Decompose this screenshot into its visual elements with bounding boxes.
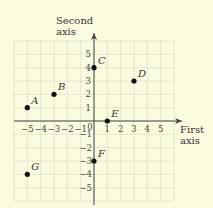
point-label-f: F [97,148,106,159]
point-label-b: B [57,81,65,92]
x-tick-label: 5 [158,124,163,134]
y-axis-label-line2: axis [56,26,76,37]
point-label-a: A [30,95,38,106]
x-tick-label: 1 [105,124,110,134]
y-tick-label: 2 [86,89,91,99]
point-a [25,105,30,110]
y-tick-label: −1 [79,129,92,139]
point-c [91,65,96,70]
point-label-e: E [110,108,119,119]
y-tick-label: 1 [86,103,91,113]
y-tick-label: −5 [79,183,92,193]
point-g [25,172,30,177]
x-tick-label: −4 [34,124,47,134]
coordinate-plane: Second axis First axis −5−4−3−2−1012345 … [0,0,213,208]
x-tick-label: −3 [48,124,61,134]
x-tick-label: −5 [21,124,34,134]
point-f [91,158,96,163]
x-tick-label: 4 [145,124,150,134]
point-label-c: C [98,55,106,66]
y-tick-label: −2 [79,143,92,153]
point-d [131,78,136,83]
x-axis-label-line2: axis [180,135,200,146]
point-label-d: D [137,68,146,79]
y-tick-label: −4 [79,169,92,179]
y-tick-label: −3 [79,156,92,166]
point-e [105,118,110,123]
point-b [51,92,56,97]
x-tick-label: −2 [61,124,74,134]
x-tick-labels: −5−4−3−2−1012345 [21,122,163,134]
y-tick-label: 5 [86,49,91,59]
y-tick-label: 4 [86,63,91,73]
x-axis-label-line1: First [180,124,204,135]
y-tick-label: 3 [86,76,91,86]
y-axis-label-line1: Second [56,15,94,26]
x-tick-label: 3 [131,124,136,134]
point-label-g: G [31,161,39,172]
x-tick-label: 2 [118,124,123,134]
